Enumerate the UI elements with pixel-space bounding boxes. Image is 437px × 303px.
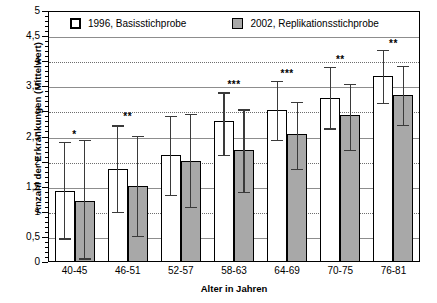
y-axis-tick-label: 3 <box>0 106 40 116</box>
y-axis-tick-label: 1,5 <box>0 182 40 192</box>
error-bar-cap-lower <box>344 150 356 151</box>
y-axis-tick-label: 5 <box>0 6 40 16</box>
legend-label: 1996, Basisstichprobe <box>88 18 186 29</box>
error-bar <box>137 136 138 236</box>
error-bar <box>117 125 118 211</box>
bar-group: * <box>48 11 101 262</box>
error-bar <box>190 114 191 207</box>
error-bar-cap-upper <box>79 140 91 141</box>
bar-group: ** <box>367 11 420 262</box>
bar-column <box>320 11 340 262</box>
error-bar <box>330 67 331 128</box>
error-bar <box>350 84 351 150</box>
bar-1996[interactable] <box>373 76 393 262</box>
significance-marker: ** <box>314 56 367 64</box>
error-bar <box>64 142 65 239</box>
error-bar <box>277 81 278 140</box>
error-bar-cap-lower <box>79 258 91 259</box>
legend-swatch <box>232 18 243 29</box>
y-axis-tick-label: 4,5 <box>0 31 40 41</box>
bar-column <box>161 11 181 262</box>
error-bar-cap-lower <box>238 192 250 193</box>
x-axis-tick-label: 58-63 <box>207 265 260 276</box>
bar-column <box>181 11 201 262</box>
y-axis-tick-label: 3,5 <box>0 81 40 91</box>
error-bar-cap-upper <box>165 116 177 117</box>
error-bar-cap-lower <box>112 212 124 213</box>
error-bar-cap-lower <box>377 103 389 104</box>
error-bar-cap-upper <box>397 66 409 67</box>
x-axis-tick-label: 70-75 <box>314 265 367 276</box>
significance-marker: ** <box>367 40 420 48</box>
y-axis-tick-label: 1 <box>0 207 40 217</box>
error-bar-cap-upper <box>59 142 71 143</box>
significance-marker: * <box>48 131 101 139</box>
x-axis-tick-label: 64-69 <box>261 265 314 276</box>
error-bar-cap-upper <box>377 50 389 51</box>
chart-figure: Anzahl der Erkrankungen (Mittelwert) 54,… <box>0 0 437 303</box>
x-axis-tick-label: 52-57 <box>154 265 207 276</box>
error-bar-cap-upper <box>185 114 197 115</box>
error-bar-cap-upper <box>132 136 144 137</box>
bar-group: ** <box>101 11 154 262</box>
legend-swatch <box>70 18 81 29</box>
error-bar-cap-upper <box>291 102 303 103</box>
error-bar-cap-upper <box>344 84 356 85</box>
y-axis-tick-label: 2 <box>0 157 40 167</box>
y-axis-tick <box>42 262 48 263</box>
error-bar-cap-upper <box>324 67 336 68</box>
error-bar-cap-upper <box>218 92 230 93</box>
error-bar-cap-lower <box>132 236 144 237</box>
error-bar <box>223 92 224 154</box>
x-axis-tick-label: 46-51 <box>101 265 154 276</box>
error-bar <box>403 66 404 125</box>
error-bar-cap-lower <box>59 238 71 239</box>
significance-marker: *** <box>207 81 260 89</box>
error-bar <box>84 140 85 259</box>
x-axis-tick-label: 40-45 <box>48 265 101 276</box>
error-bar-cap-lower <box>397 125 409 126</box>
error-bar-cap-lower <box>185 207 197 208</box>
error-bar-cap-lower <box>291 169 303 170</box>
significance-marker: ** <box>101 113 154 121</box>
x-axis-tick-label: 76-81 <box>367 265 420 276</box>
legend-label: 2002, Replikationsstichprobe <box>250 18 378 29</box>
legend: 1996, Basisstichprobe2002, Replikationss… <box>70 18 379 29</box>
bar-column <box>234 11 254 262</box>
legend-item: 1996, Basisstichprobe <box>70 18 186 29</box>
legend-item: 2002, Replikationsstichprobe <box>232 18 378 29</box>
error-bar-cap-upper <box>271 81 283 82</box>
y-axis-tick-label: 0,5 <box>0 232 40 242</box>
bar-column <box>340 11 360 262</box>
error-bar <box>243 109 244 192</box>
bar-group: *** <box>261 11 314 262</box>
error-bar <box>297 102 298 169</box>
bar-group: ** <box>314 11 367 262</box>
bar-column <box>108 11 128 262</box>
y-axis-tick-label: 2,5 <box>0 132 40 142</box>
error-bar <box>383 50 384 103</box>
error-bar-cap-lower <box>324 128 336 129</box>
error-bar <box>170 116 171 195</box>
error-bar-cap-lower <box>165 195 177 196</box>
bar-groups: ************* <box>48 11 420 262</box>
bar-column <box>267 11 287 262</box>
error-bar-cap-upper <box>112 125 124 126</box>
x-axis-tick-labels: 40-4546-5152-5758-6364-6970-7576-81 <box>48 265 420 276</box>
bar-column <box>128 11 148 262</box>
error-bar-cap-upper <box>238 109 250 110</box>
x-axis-title: Alter in Jahren <box>48 283 420 294</box>
bar-group <box>154 11 207 262</box>
y-axis-tick-label: 0 <box>0 257 40 267</box>
bar-column <box>287 11 307 262</box>
bar-group: *** <box>207 11 260 262</box>
error-bar-cap-lower <box>218 155 230 156</box>
error-bar-cap-lower <box>271 140 283 141</box>
y-axis-tick-label: 4 <box>0 56 40 66</box>
bar-column <box>214 11 234 262</box>
significance-marker: *** <box>261 70 314 78</box>
